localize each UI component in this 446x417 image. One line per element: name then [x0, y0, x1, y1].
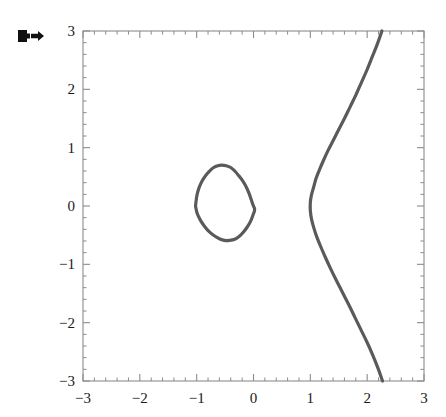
x-tick-label: −1 [189, 391, 205, 406]
curve-oval-component [196, 165, 255, 240]
x-tick-label: −2 [132, 391, 148, 406]
y-tick-label: 1 [68, 140, 76, 155]
y-tick-label: 2 [68, 82, 76, 97]
x-tick-label: 0 [250, 391, 258, 406]
y-tick-label: 0 [68, 199, 76, 214]
y-tick-label: −2 [59, 315, 75, 330]
x-tick-label: 3 [420, 391, 428, 406]
figure-container: −3−2−10123 −3−2−10123 [0, 0, 446, 417]
y-tick-label: −3 [59, 374, 75, 389]
data-curves [196, 31, 383, 381]
curve-right-branch [310, 31, 382, 381]
y-tick-label: 3 [68, 24, 76, 39]
x-tick-label: 1 [307, 391, 315, 406]
x-tick-label: 2 [363, 391, 371, 406]
x-tick-label: −3 [75, 391, 91, 406]
y-tick-label: −1 [59, 257, 75, 272]
